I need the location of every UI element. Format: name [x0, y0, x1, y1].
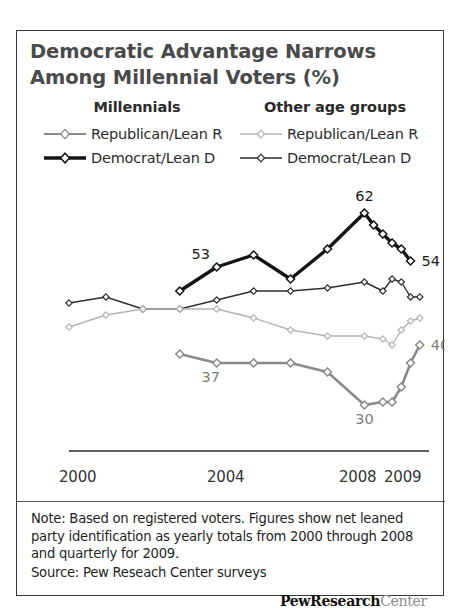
legend-item-label: Democrat/Lean D: [287, 150, 411, 166]
logo-light-text: Center: [380, 593, 427, 609]
source-text: Source: Pew Reseach Center surveys: [31, 564, 431, 582]
line-chart-plot: 536254373040: [17, 181, 445, 461]
x-axis-tick-2000: 2000: [59, 468, 96, 486]
legend-line-swatch-icon: [43, 151, 87, 165]
legend-group-heading: Millennials: [39, 99, 235, 115]
legend-group-millennials: Millennials Republican/Lean R Democrat/L…: [39, 99, 235, 170]
chart-figure: Democratic Advantage Narrows Among Mille…: [16, 30, 444, 596]
data-label-62: 62: [355, 188, 373, 204]
x-axis-tick-2008: 2008: [339, 468, 376, 486]
pew-research-center-logo: PewResearchCenter: [31, 593, 431, 609]
data-label-30: 30: [355, 411, 373, 427]
legend-item-millennials-republican[interactable]: Republican/Lean R: [39, 122, 235, 146]
logo-bold-text: PewResearch: [280, 593, 380, 609]
footnote-text: Note: Based on registered voters. Figure…: [31, 510, 431, 563]
page-title: Democratic Advantage Narrows Among Mille…: [30, 39, 430, 91]
series-millennials-democrat: [176, 209, 415, 295]
legend-item-label: Democrat/Lean D: [91, 150, 215, 166]
legend-item-label: Republican/Lean R: [287, 126, 418, 142]
data-label-54: 54: [422, 253, 440, 269]
series-other-age-groups-republican: [66, 306, 423, 348]
chart-footer: Note: Based on registered voters. Figure…: [17, 501, 445, 609]
x-axis-tick-labels: 2000200420082009: [17, 468, 445, 494]
legend-item-label: Republican/Lean R: [91, 126, 222, 142]
data-label-40: 40: [431, 337, 445, 353]
data-label-37: 37: [201, 369, 219, 385]
legend-item-other-republican[interactable]: Republican/Lean R: [235, 122, 435, 146]
series-other-age-groups-democrat: [66, 276, 423, 312]
chart-legend: Millennials Republican/Lean R Democrat/L…: [17, 99, 445, 189]
legend-line-swatch-icon: [43, 127, 87, 141]
x-axis-tick-2009: 2009: [384, 468, 421, 486]
legend-group-other-age-groups: Other age groups Republican/Lean R Democ…: [235, 99, 435, 170]
legend-line-swatch-icon: [239, 151, 283, 165]
legend-item-millennials-democrat[interactable]: Democrat/Lean D: [39, 146, 235, 170]
data-label-53: 53: [191, 246, 209, 262]
legend-group-heading: Other age groups: [235, 99, 435, 115]
legend-item-other-democrat[interactable]: Democrat/Lean D: [235, 146, 435, 170]
legend-line-swatch-icon: [239, 127, 283, 141]
x-axis-tick-2004: 2004: [207, 468, 244, 486]
